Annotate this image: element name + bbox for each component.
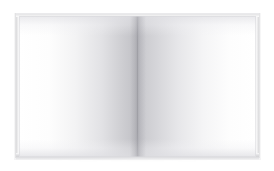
- left-page-curl-shading: [19, 16, 137, 157]
- open-book: [14, 13, 261, 160]
- right-page-curl-shading: [137, 16, 256, 157]
- right-page: [137, 16, 256, 157]
- center-gutter: [130, 16, 146, 157]
- left-page: [19, 16, 137, 157]
- image-description: Open blank hardcover book photographed f…: [0, 16, 1, 17]
- page-spread: [19, 16, 256, 157]
- spine-fold-line: [137, 17, 138, 156]
- image-canvas: Open blank hardcover book photographed f…: [0, 0, 274, 171]
